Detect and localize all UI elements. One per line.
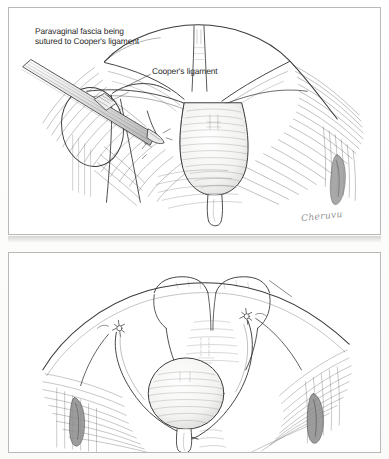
suture-knot-right — [240, 308, 267, 324]
suture-knot-left — [98, 320, 125, 336]
bladder — [180, 103, 248, 195]
left-sidewall-hatching — [43, 374, 146, 452]
panel-top-suturing-step: Paravaginal fascia being sutured to Coop… — [8, 7, 381, 235]
obturator-foramen-right — [307, 394, 323, 444]
bladder-2 — [148, 358, 224, 429]
symphysis-pubis-body — [154, 277, 270, 330]
obturator-foramen-left — [69, 398, 84, 447]
label-paravaginal-fascia-suturing: Paravaginal fascia being sutured to Coop… — [35, 26, 215, 46]
panel-bottom-illustration — [9, 253, 380, 452]
paravaginal-fascia-left — [95, 147, 145, 205]
panel-bottom-completed-repair: Burch procedure Symphysis pubis Paravagi… — [8, 252, 381, 453]
right-obturator-shadow — [330, 155, 345, 205]
needle-driver-instrument — [22, 60, 164, 145]
burch-procedure-leader — [270, 281, 292, 297]
panel-separator-shadow — [8, 236, 381, 243]
central-lower-tissue — [198, 430, 226, 447]
urethra-catheter — [207, 195, 222, 225]
figure-sheet: Paravaginal fascia being sutured to Coop… — [0, 0, 389, 459]
urethra-catheter-2 — [176, 429, 191, 452]
right-sidewall-hatching — [252, 350, 351, 452]
label-coopers-ligament: Cooper's ligament — [152, 66, 218, 76]
